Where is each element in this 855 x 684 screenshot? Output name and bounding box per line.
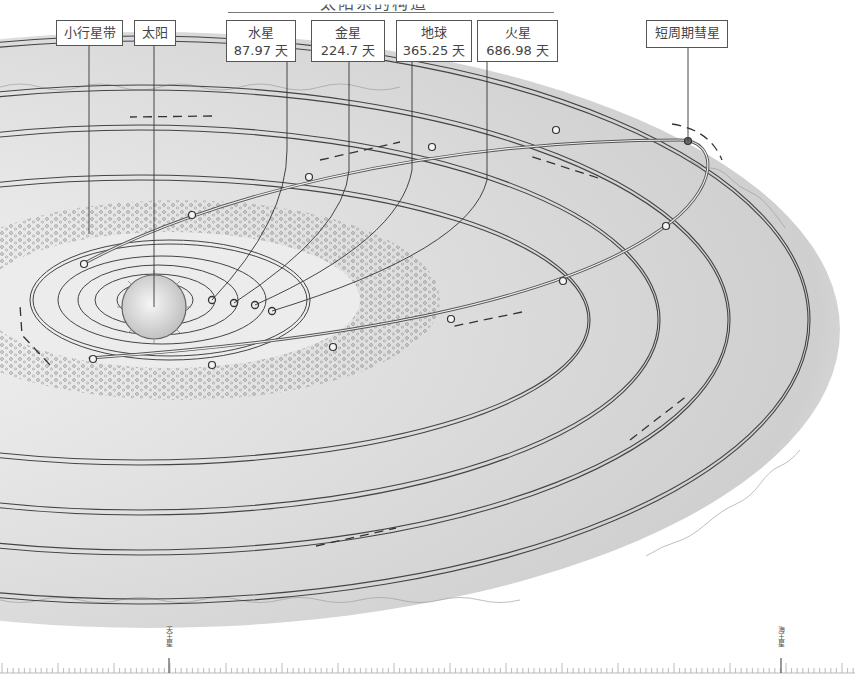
label-sun: 太阳 — [134, 20, 176, 46]
label-short-period-comet: 短周期彗星 — [646, 20, 728, 48]
uranus-label: 天王星 — [165, 626, 173, 647]
neptune-label: 海王星 — [777, 626, 785, 647]
label-mercury: 水星 87.97 天 — [226, 20, 296, 62]
label-earth: 地球 365.25 天 — [396, 20, 472, 62]
label-mars: 火星 686.98 天 — [477, 20, 558, 62]
label-venus: 金星 224.7 天 — [311, 20, 385, 62]
solar-system-diagram: 太阳系的构造 — [0, 0, 855, 684]
label-asteroid-belt: 小行星带 — [56, 20, 123, 46]
orbit-illustration — [0, 0, 855, 684]
